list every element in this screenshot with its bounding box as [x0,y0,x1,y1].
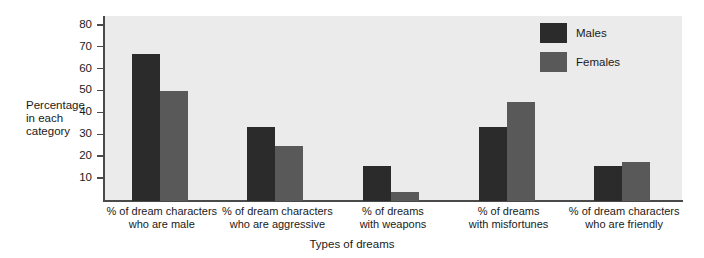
x-axis-category-label-line: with weapons [335,218,451,231]
bar-chart: 1020304050607080 Percentagein eachcatego… [0,0,704,258]
y-axis-tick [97,24,104,26]
x-axis-category-label-line: % of dream characters [220,205,336,218]
y-axis-tick [97,155,104,157]
legend-item-males: Males [540,23,690,43]
y-axis-tick-label: 70 [0,41,92,53]
x-axis-category-label: % of dream characterswho are male [104,205,220,230]
legend-item-females: Females [540,52,690,72]
y-axis-tick-label: 60 [0,63,92,75]
x-axis-category-label: % of dreamswith misfortunes [451,205,567,230]
y-axis-tick [97,112,104,114]
y-axis-tick-label-text: 60 [48,63,92,75]
y-axis-tick-label: 10 [0,172,92,184]
legend-label: Males [576,27,607,39]
y-axis-title-line: in each [26,112,98,125]
y-axis-tick-label-text: 70 [48,41,92,53]
y-axis-tick [97,68,104,70]
legend: MalesFemales [540,23,690,81]
y-axis-tick [97,177,104,179]
legend-swatch-icon [540,23,567,43]
y-axis-tick-label-text: 50 [48,84,92,96]
x-axis-category-label: % of dream characterswho are aggressive [220,205,336,230]
legend-swatch-icon [540,52,567,72]
y-axis-tick [97,134,104,136]
x-axis-category-label: % of dream characterswho are friendly [566,205,682,230]
y-axis-tick-label-text: 10 [48,172,92,184]
y-axis-title-line: category [26,125,98,138]
y-axis-tick-label: 80 [0,19,92,31]
y-axis-title: Percentagein eachcategory [26,99,98,138]
x-axis-category-label: % of dreamswith weapons [335,205,451,230]
x-axis-category-label-line: % of dreams [451,205,567,218]
x-axis-category-label-line: % of dream characters [104,205,220,218]
y-axis-tick [97,46,104,48]
x-axis-category-label-line: who are male [104,218,220,231]
y-axis-tick-label: 20 [0,150,92,162]
legend-label: Females [576,56,620,68]
y-axis-tick-label-text: 20 [48,150,92,162]
y-axis-tick-label-text: 80 [48,19,92,31]
x-axis-category-label-line: who are friendly [566,218,682,231]
x-axis-category-label-line: with misfortunes [451,218,567,231]
x-axis-line [103,200,683,202]
x-axis-title: Types of dreams [0,238,704,251]
y-axis-title-line: Percentage [26,99,98,112]
y-axis-line [103,16,105,201]
y-axis-tick [97,90,104,92]
x-axis-category-label-line: who are aggressive [220,218,336,231]
x-axis-category-label-line: % of dream characters [566,205,682,218]
x-axis-category-label-line: % of dreams [335,205,451,218]
y-axis-tick-label: 50 [0,84,92,96]
